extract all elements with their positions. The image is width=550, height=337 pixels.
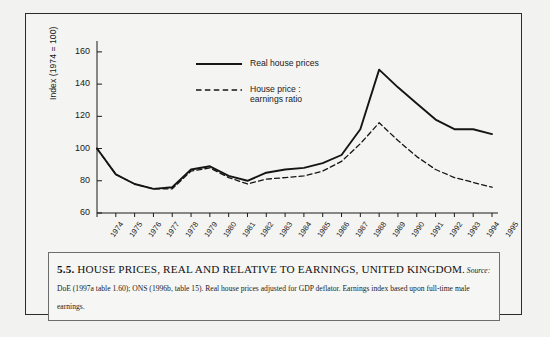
y-axis-tick-label: 160 xyxy=(64,46,90,56)
y-axis-tick-label: 80 xyxy=(64,175,90,185)
legend-label: House price : earnings ratio xyxy=(250,84,302,104)
legend-label: Real house prices xyxy=(250,58,319,68)
series-line xyxy=(97,123,492,189)
y-axis-tick-label: 140 xyxy=(64,78,90,88)
caption-heading: 5.5. HOUSE PRICES, REAL AND RELATIVE TO … xyxy=(57,263,465,275)
y-axis-tick-label: 60 xyxy=(64,207,90,217)
caption-number: 5.5. xyxy=(57,263,74,275)
figure-caption: 5.5. HOUSE PRICES, REAL AND RELATIVE TO … xyxy=(48,252,500,321)
caption-title: HOUSE PRICES, REAL AND RELATIVE TO EARNI… xyxy=(77,263,465,275)
figure-frame: Index (1974 = 100) 608010012014016019741… xyxy=(25,13,522,315)
y-axis-tick-label: 100 xyxy=(64,143,90,153)
y-axis-tick-label: 120 xyxy=(64,110,90,120)
caption-source-label: Source: xyxy=(467,266,490,275)
chart-plot-area: Index (1974 = 100) 608010012014016019741… xyxy=(26,14,523,244)
caption-source-text: DoE (1997a table 1.60); ONS (1996b, tabl… xyxy=(57,284,470,311)
line-chart xyxy=(26,14,523,244)
